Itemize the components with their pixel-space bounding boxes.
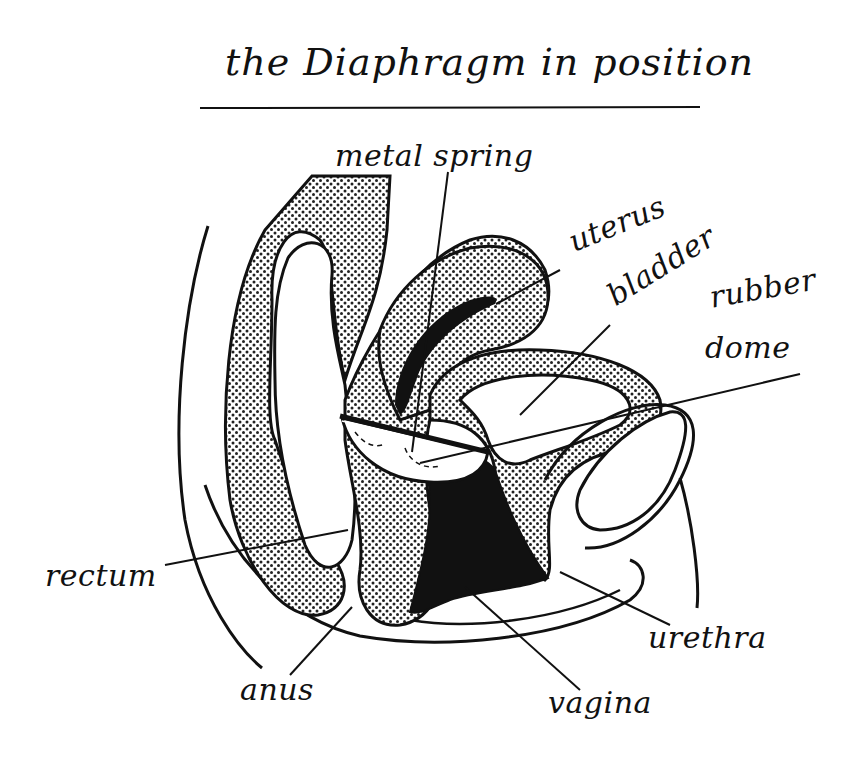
label-dome: dome xyxy=(705,330,790,365)
label-rectum: rectum xyxy=(45,558,157,593)
abdominal-wall xyxy=(680,478,698,608)
leader-urethra xyxy=(560,572,670,625)
diagram-title: the Diaphragm in position xyxy=(225,40,754,84)
label-vagina: vagina xyxy=(548,685,652,720)
label-metal-spring: metal spring xyxy=(335,138,533,173)
label-urethra: urethra xyxy=(648,620,767,655)
leader-anus xyxy=(290,607,352,675)
title-underline xyxy=(200,107,700,108)
label-anus: anus xyxy=(240,672,314,707)
